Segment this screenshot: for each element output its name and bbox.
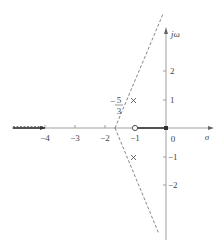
jomega-label: jω (170, 29, 180, 39)
x-ticks (45, 125, 135, 128)
ytick-m1: −1 (168, 152, 178, 162)
pole-origin-icon (164, 126, 168, 130)
ytick-2: 2 (170, 66, 175, 76)
xtick-m1: −1 (130, 133, 140, 143)
pole-lower-icon (131, 155, 136, 160)
real-axis-arrow-icon (208, 126, 214, 130)
centroid-denominator: 3 (117, 106, 122, 116)
centroid-numerator: 5 (117, 95, 122, 105)
root-locus-plot: −4 −3 −2 −1 0 σ 2 1 −1 −2 jω − 5 3 (0, 0, 223, 246)
asymptote-upper (115, 14, 163, 128)
xtick-m4: −4 (40, 133, 50, 143)
plot-canvas: −4 −3 −2 −1 0 σ 2 1 −1 −2 jω − 5 3 (0, 0, 223, 246)
ytick-1: 1 (170, 95, 175, 105)
sigma-label: σ (205, 132, 210, 142)
ytick-m2: −2 (168, 180, 178, 190)
centroid-sign: − (110, 96, 115, 106)
xtick-m3: −3 (70, 133, 80, 143)
xtick-m2: −2 (100, 133, 110, 143)
asymptote-lower (115, 128, 159, 234)
pole-upper-icon (131, 98, 136, 103)
zero-icon (132, 125, 137, 130)
xtick-0: 0 (171, 134, 176, 144)
imag-axis-arrow-icon (164, 27, 168, 34)
